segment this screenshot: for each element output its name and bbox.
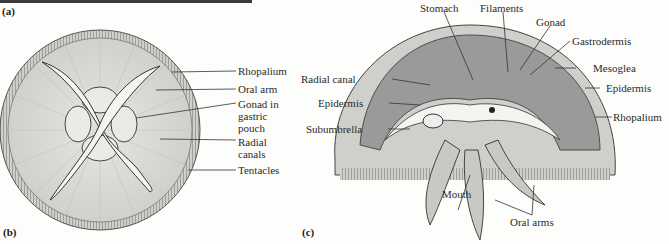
label-gonad-line2: gastric <box>238 110 267 122</box>
medusa-top-view <box>0 30 200 230</box>
panel-label-a: (a) <box>2 5 15 17</box>
label-gastrodermis: Gastrodermis <box>572 35 631 47</box>
label-oral-arms: Oral arms <box>510 216 554 228</box>
label-oral-arm: Oral arm <box>238 83 277 95</box>
label-epidermis-right: Epidermis <box>606 82 651 94</box>
label-rhopalium-c: Rhopalium <box>613 111 662 123</box>
label-gonad-c: Gonad <box>536 16 565 28</box>
label-gonad-line1: Gonad in <box>238 98 279 110</box>
label-epidermis-left: Epidermis <box>318 97 363 109</box>
label-mesoglea: Mesoglea <box>593 62 636 74</box>
medusa-cross-section <box>335 25 616 240</box>
diagram-drawing <box>0 0 669 244</box>
label-radial-canal: Radial canal <box>301 73 356 85</box>
label-subumbrella: Subumbrella <box>306 123 362 135</box>
label-rhopalium-b: Rhopalium <box>238 65 287 77</box>
label-filaments: Filaments <box>480 2 523 14</box>
label-gonad-line3: pouch <box>238 122 265 134</box>
label-radial-line1: Radial <box>238 136 267 148</box>
jellyfish-anatomy-figure: (a) (b) (c) Rhopalium Oral arm Gonad in … <box>0 0 669 244</box>
label-mouth: Mouth <box>442 188 471 200</box>
label-stomach: Stomach <box>420 2 459 14</box>
panel-label-c: (c) <box>302 226 314 238</box>
label-radial-line2: canals <box>238 148 265 160</box>
panel-label-b: (b) <box>3 226 16 238</box>
label-tentacles: Tentacles <box>238 164 279 176</box>
